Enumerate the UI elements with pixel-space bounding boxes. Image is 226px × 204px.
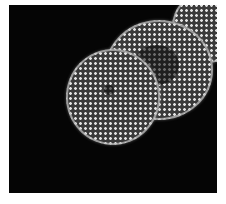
nucleus-lower-left-dark-spot	[104, 85, 114, 95]
microscopy-image	[9, 5, 217, 193]
nucleus-lower-left	[66, 49, 160, 145]
